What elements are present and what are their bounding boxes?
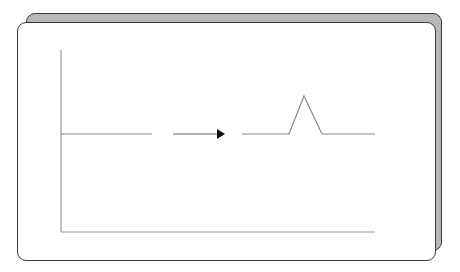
arrow-right-icon <box>217 129 225 139</box>
signal-diagram <box>0 0 460 272</box>
peak-signal <box>242 96 375 134</box>
